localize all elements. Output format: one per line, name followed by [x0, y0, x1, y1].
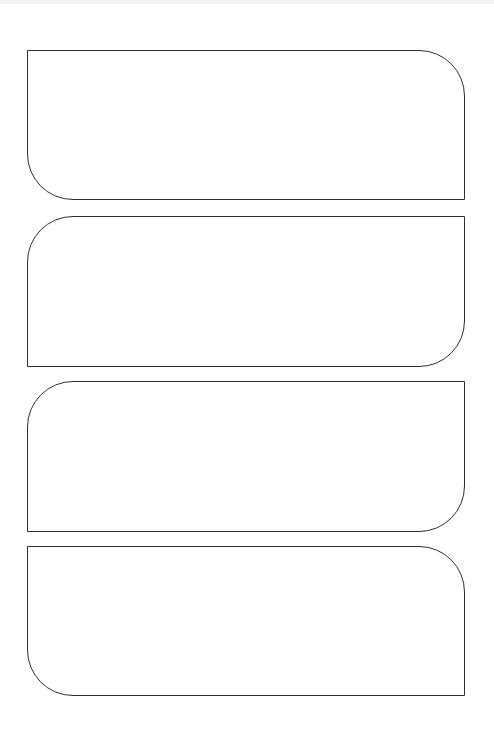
panel-4 — [27, 546, 465, 696]
panel-1 — [27, 50, 465, 200]
panel-3 — [27, 381, 465, 532]
panel-2 — [27, 216, 465, 367]
panel-layout-page — [0, 0, 494, 729]
